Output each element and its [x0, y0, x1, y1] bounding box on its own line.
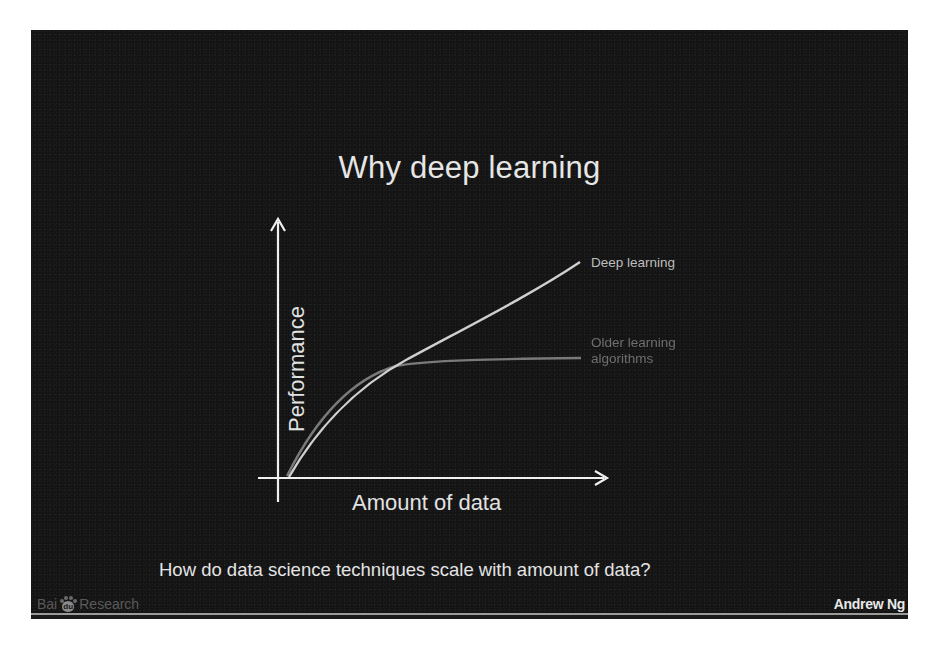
brand-suffix: Research: [79, 596, 139, 612]
y-axis: [271, 219, 285, 502]
performance-chart: [31, 30, 908, 613]
y-axis-label: Performance: [284, 289, 310, 449]
x-axis-label: Amount of data: [352, 490, 501, 516]
baidu-research-logo: Bai du Research: [37, 596, 139, 612]
x-axis: [258, 471, 607, 485]
author-name: Andrew Ng: [834, 596, 905, 612]
legend-deep-learning: Deep learning: [591, 255, 675, 270]
paw-text: du: [62, 601, 74, 612]
legend-older-line2: algorithms: [591, 351, 653, 366]
brand-prefix: Bai: [37, 596, 57, 612]
older-algorithms-curve: [287, 358, 581, 476]
deep-learning-curve: [289, 262, 580, 477]
slide: Why deep learning Performance Amount of …: [31, 30, 908, 613]
legend-older-line1: Older learning: [591, 335, 676, 350]
slide-bottom-rule: [31, 613, 908, 619]
paw-icon: du: [59, 596, 77, 612]
legend-older-algorithms: Older learning algorithms: [591, 335, 676, 367]
slide-subtitle: How do data science techniques scale wit…: [159, 559, 651, 581]
